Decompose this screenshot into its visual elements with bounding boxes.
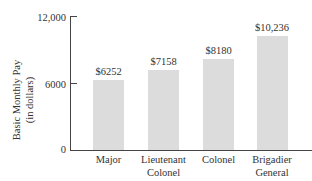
y-axis-label: Basic Monthly Pay (in dollars) <box>0 50 46 150</box>
y-tick-label-0: 0 <box>61 144 66 155</box>
bar-value-label: $7158 <box>134 56 194 67</box>
y-axis-label-line-1: Basic Monthly Pay <box>10 35 23 165</box>
x-category-label-line: Brigadier <box>237 153 307 166</box>
y-tick-label-6000: 6000 <box>45 79 66 90</box>
x-category-label: BrigadierGeneral <box>237 153 307 179</box>
x-axis-line <box>70 150 312 151</box>
bar-brigadier-general <box>257 36 288 150</box>
bar-major <box>93 80 124 150</box>
bar-value-label: $10,236 <box>242 22 302 33</box>
y-tick-12000 <box>70 16 77 17</box>
y-tick-label-12000: 12,000 <box>37 12 66 23</box>
bar-colonel <box>203 59 234 150</box>
x-category-label-line: Colonel <box>129 166 199 179</box>
bar-value-label: $8180 <box>189 45 249 56</box>
bar-chart: Basic Monthly Pay (in dollars) 12,000 60… <box>0 0 312 181</box>
bar-lieutenant-colonel <box>148 70 179 150</box>
x-category-label-line: General <box>237 166 307 179</box>
bar-value-label: $6252 <box>79 66 139 77</box>
y-tick-6000 <box>70 83 77 84</box>
y-axis-label-line-2: (in dollars) <box>23 35 36 165</box>
